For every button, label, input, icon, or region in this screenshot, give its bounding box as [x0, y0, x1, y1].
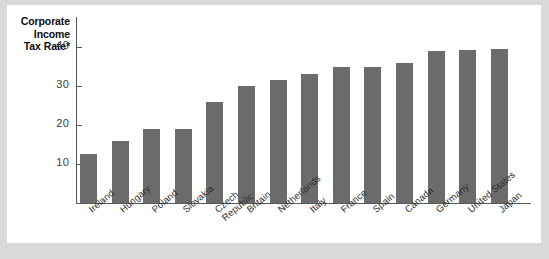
y-axis-line: [76, 17, 77, 203]
y-axis-title-line: Corporate: [7, 15, 70, 28]
bar: [459, 50, 476, 203]
y-axis-tick-label: 40: [29, 39, 69, 51]
x-axis-line: [76, 203, 531, 204]
y-axis-tick-mark: [77, 86, 82, 87]
y-axis-tick-label: 10: [29, 156, 69, 168]
y-axis-tick-mark: [77, 125, 82, 126]
bar: [364, 67, 381, 204]
bar: [80, 154, 97, 203]
y-axis-tick-label: 30: [29, 78, 69, 90]
chart-card: CorporateIncomeTax Rate* 10203040 Irelan…: [7, 5, 541, 243]
bar: [270, 80, 287, 203]
bar-chart: CorporateIncomeTax Rate* 10203040 Irelan…: [7, 5, 541, 243]
chart-page: CorporateIncomeTax Rate* 10203040 Irelan…: [0, 0, 549, 259]
bar: [428, 51, 445, 203]
y-axis-tick-mark: [77, 47, 82, 48]
bar: [333, 67, 350, 204]
bar: [396, 63, 413, 203]
y-axis-tick-label: 20: [29, 117, 69, 129]
